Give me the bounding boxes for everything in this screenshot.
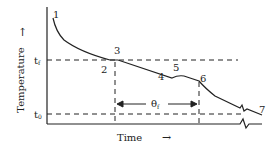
x-axis — [47, 119, 262, 128]
theta-label: θf — [151, 98, 160, 110]
cooling-curve-diagram: θf 1 2 3 4 5 6 7 tf t0 Temperature ↑ Tim… — [0, 0, 280, 152]
point-label-2: 2 — [101, 64, 107, 75]
x-axis-arrow-icon: → — [162, 131, 171, 144]
point-label-1: 1 — [53, 9, 59, 20]
point-label-6: 6 — [200, 73, 206, 84]
tf-label: tf — [34, 55, 41, 66]
t0-label: t0 — [34, 109, 42, 120]
point-label-7: 7 — [259, 104, 265, 115]
point-labels: 1 2 3 4 5 6 7 — [53, 9, 265, 115]
cooling-curve — [53, 18, 262, 115]
y-axis-arrow-icon: ↑ — [18, 26, 27, 39]
y-axis-label: Temperature — [15, 47, 26, 113]
axes — [47, 7, 262, 128]
arrowhead-right-icon — [191, 101, 197, 107]
point-label-4: 4 — [158, 71, 164, 82]
point-label-3: 3 — [114, 45, 120, 56]
arrowhead-left-icon — [117, 101, 123, 107]
point-label-5: 5 — [173, 62, 179, 73]
x-axis-label: Time — [117, 132, 142, 143]
